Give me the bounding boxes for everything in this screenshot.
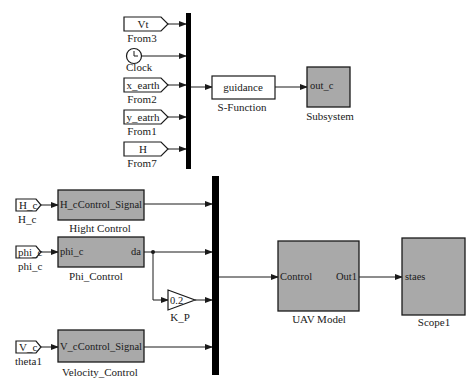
- scope-in-port: staes: [405, 271, 425, 282]
- phi-control-block[interactable]: phi_c da Phi_Control: [58, 237, 144, 282]
- hight-control-block[interactable]: H_c Control_Signal Hight Control: [58, 190, 144, 234]
- subsystem-port-out-c: out_c: [310, 80, 334, 91]
- from-tag-phi-c: phi_c: [18, 246, 43, 258]
- mux-bottom[interactable]: [212, 176, 219, 375]
- subsystem-block[interactable]: out_c Subsystem: [306, 67, 354, 122]
- sfunction-block[interactable]: guidance S-Function: [212, 76, 275, 113]
- sfunction-caption: S-Function: [218, 101, 267, 113]
- uav-model-in-port: Control: [280, 271, 312, 282]
- from-tag-v-c: V_c: [19, 341, 37, 353]
- gain-block[interactable]: 0.2 K_P: [168, 290, 195, 323]
- from-tag-vt: Vt: [138, 18, 149, 30]
- from-tag-y-eatrh: y_eatrh: [127, 111, 160, 123]
- from-block-h[interactable]: H From7: [124, 142, 168, 169]
- from-caption-x-earth: From2: [127, 93, 156, 105]
- phi-control-in-port: phi_c: [60, 246, 84, 257]
- phi-control-caption: Phi_Control: [69, 270, 123, 282]
- gain-caption: K_P: [170, 311, 190, 323]
- from-block-y-eatrh[interactable]: y_eatrh From1: [124, 110, 168, 137]
- from-tag-x-earth: x_earth: [127, 79, 160, 91]
- velocity-control-out-port: Control_Signal: [78, 341, 142, 352]
- from-block-x-earth[interactable]: x_earth From2: [124, 78, 168, 105]
- velocity-control-in-port: V_c: [60, 341, 78, 352]
- from-tag-h: H: [139, 143, 147, 155]
- hight-control-in-port: H_c: [60, 199, 78, 210]
- from-caption-vt: From3: [127, 32, 157, 44]
- from-caption-y-eatrh: From1: [127, 125, 156, 137]
- from-block-v-c[interactable]: V_c theta1: [15, 341, 42, 367]
- uav-model-caption: UAV Model: [292, 313, 346, 325]
- sfunction-text: guidance: [223, 81, 263, 93]
- from-block-phi-c[interactable]: phi_c phi_c: [16, 246, 43, 272]
- mux-top[interactable]: [186, 13, 191, 169]
- phi-control-out-port: da: [131, 246, 141, 257]
- velocity-control-block[interactable]: V_c Control_Signal Velocity_Control: [58, 330, 144, 378]
- uav-model-block[interactable]: Control Out1 UAV Model: [278, 241, 359, 325]
- wire-phi-to-gain: [153, 252, 168, 300]
- from-block-vt[interactable]: Vt From3: [124, 17, 168, 44]
- simulink-canvas: Vt From3 Clock x_earth From2 y_eatrh Fro…: [0, 0, 474, 389]
- from-caption-h-c: H_c: [18, 213, 36, 225]
- from-block-h-c[interactable]: H_c H_c: [16, 199, 41, 225]
- velocity-control-caption: Velocity_Control: [62, 366, 138, 378]
- subsystem-caption: Subsystem: [306, 110, 354, 122]
- clock-block[interactable]: Clock: [126, 49, 153, 74]
- hight-control-out-port: Control_Signal: [78, 199, 142, 210]
- clock-caption: Clock: [126, 61, 153, 73]
- hight-control-caption: Hight Control: [69, 222, 130, 234]
- from-caption-h: From7: [127, 157, 157, 169]
- uav-model-out-port: Out1: [336, 271, 357, 282]
- scope-block[interactable]: staes Scope1: [402, 238, 465, 328]
- from-caption-phi-c: phi_c: [18, 260, 43, 272]
- from-caption-theta1: theta1: [15, 355, 42, 367]
- scope-caption: Scope1: [418, 316, 450, 328]
- gain-value: 0.2: [170, 295, 183, 306]
- from-tag-h-c: H_c: [19, 199, 37, 211]
